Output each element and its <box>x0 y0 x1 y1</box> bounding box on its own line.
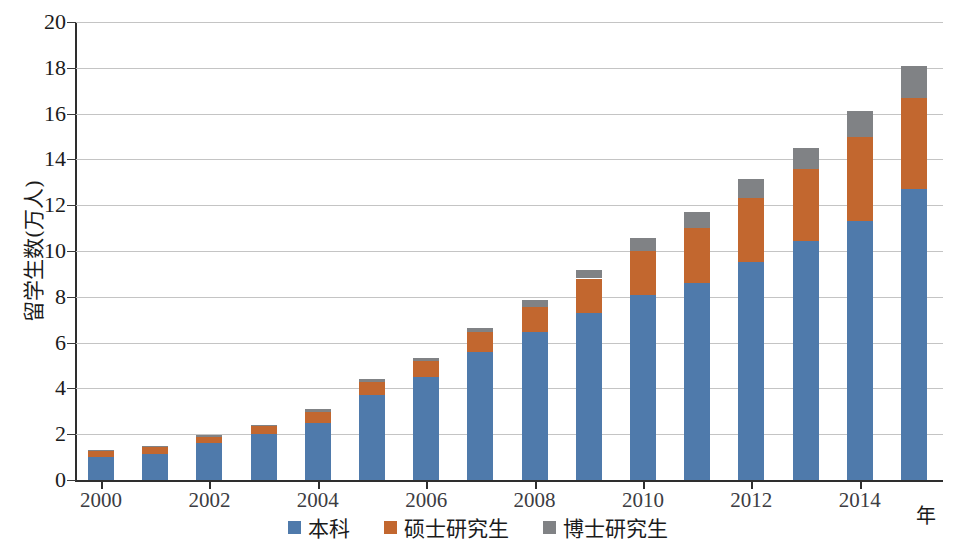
x-tick-label: 2000 <box>56 488 146 513</box>
bar-segment[interactable] <box>467 328 493 333</box>
bar-stack[interactable] <box>847 22 873 480</box>
bar-segment[interactable] <box>413 377 439 480</box>
bar-segment[interactable] <box>251 434 277 480</box>
bar-stack[interactable] <box>142 22 168 480</box>
bar-segment[interactable] <box>630 251 656 295</box>
y-tick-mark <box>67 114 76 115</box>
bar-segment[interactable] <box>630 238 656 251</box>
y-tick-mark <box>67 22 76 23</box>
bar-segment[interactable] <box>359 379 385 381</box>
y-tick-label: 14 <box>20 146 66 172</box>
bar-segment[interactable] <box>88 451 114 457</box>
bar-segment[interactable] <box>901 189 927 480</box>
bar-segment[interactable] <box>359 382 385 396</box>
bar-segment[interactable] <box>847 111 873 136</box>
bar-segment[interactable] <box>251 426 277 434</box>
bar-segment[interactable] <box>793 148 819 169</box>
legend-item[interactable]: 硕士研究生 <box>384 512 509 540</box>
x-tick-label: 2004 <box>273 488 363 513</box>
bar-stack[interactable] <box>522 22 548 480</box>
legend-label: 博士研究生 <box>563 512 668 540</box>
bar-segment[interactable] <box>738 198 764 262</box>
legend-swatch-icon <box>543 521 556 534</box>
bar-segment[interactable] <box>196 435 222 436</box>
bar-segment[interactable] <box>467 352 493 480</box>
x-tick-label: 2002 <box>164 488 254 513</box>
bar-segment[interactable] <box>467 332 493 351</box>
bar-segment[interactable] <box>196 437 222 444</box>
bar-stack[interactable] <box>196 22 222 480</box>
bar-stack[interactable] <box>576 22 602 480</box>
y-tick-label: 2 <box>20 421 66 447</box>
bar-segment[interactable] <box>522 332 548 480</box>
bar-segment[interactable] <box>88 450 114 451</box>
bar-segment[interactable] <box>684 212 710 228</box>
y-tick-label: 16 <box>20 101 66 127</box>
bar-stack[interactable] <box>467 22 493 480</box>
bar-segment[interactable] <box>522 300 548 307</box>
y-tick-mark <box>67 297 76 298</box>
bar-stack[interactable] <box>793 22 819 480</box>
y-tick-label: 4 <box>20 375 66 401</box>
bar-stack[interactable] <box>630 22 656 480</box>
legend-swatch-icon <box>384 521 397 534</box>
x-tick-label: 2010 <box>598 488 688 513</box>
bar-segment[interactable] <box>196 443 222 480</box>
bar-segment[interactable] <box>142 447 168 454</box>
bar-segment[interactable] <box>901 66 927 98</box>
bar-segment[interactable] <box>684 283 710 480</box>
x-tick-label: 2008 <box>490 488 580 513</box>
x-tick-label: 2014 <box>815 488 905 513</box>
bar-stack[interactable] <box>684 22 710 480</box>
bar-segment[interactable] <box>738 179 764 198</box>
x-tick-label: 2006 <box>381 488 471 513</box>
x-axis-baseline <box>76 480 943 482</box>
bar-segment[interactable] <box>847 221 873 480</box>
y-tick-label: 18 <box>20 55 66 81</box>
bar-stack[interactable] <box>738 22 764 480</box>
y-tick-mark <box>67 343 76 344</box>
bar-segment[interactable] <box>522 307 548 332</box>
bar-segment[interactable] <box>251 425 277 426</box>
bar-stack[interactable] <box>413 22 439 480</box>
bar-segment[interactable] <box>793 169 819 241</box>
y-tick-mark <box>67 205 76 206</box>
bar-segment[interactable] <box>576 270 602 278</box>
bar-segment[interactable] <box>305 409 331 412</box>
y-tick-mark <box>67 434 76 435</box>
bar-stack[interactable] <box>251 22 277 480</box>
y-tick-label: 12 <box>20 192 66 218</box>
bar-stack[interactable] <box>305 22 331 480</box>
plot-area <box>76 22 943 480</box>
bar-stack[interactable] <box>901 22 927 480</box>
legend-item[interactable]: 本科 <box>288 512 350 540</box>
bar-segment[interactable] <box>305 423 331 480</box>
bar-segment[interactable] <box>901 98 927 190</box>
bar-segment[interactable] <box>847 137 873 222</box>
y-tick-mark <box>67 480 76 481</box>
legend-item[interactable]: 博士研究生 <box>543 512 668 540</box>
legend-label: 本科 <box>308 512 350 540</box>
y-tick-mark <box>67 251 76 252</box>
stacked-bar-chart: 留学生数(万人) 02468101214161820 2000200220042… <box>0 0 955 540</box>
bar-segment[interactable] <box>738 262 764 480</box>
bar-segment[interactable] <box>793 241 819 480</box>
bar-segment[interactable] <box>142 454 168 480</box>
y-tick-label: 6 <box>20 330 66 356</box>
y-tick-label: 8 <box>20 284 66 310</box>
y-tick-mark <box>67 68 76 69</box>
bar-stack[interactable] <box>88 22 114 480</box>
bar-segment[interactable] <box>413 358 439 361</box>
bar-segment[interactable] <box>576 313 602 480</box>
bar-stack[interactable] <box>359 22 385 480</box>
bar-segment[interactable] <box>305 412 331 422</box>
bar-segment[interactable] <box>359 395 385 480</box>
bar-segment[interactable] <box>142 446 168 447</box>
bar-segment[interactable] <box>88 457 114 480</box>
bar-segment[interactable] <box>630 295 656 480</box>
bar-segment[interactable] <box>413 361 439 377</box>
bar-segment[interactable] <box>684 228 710 283</box>
y-tick-label: 20 <box>20 9 66 35</box>
y-tick-mark <box>67 159 76 160</box>
bar-segment[interactable] <box>576 279 602 313</box>
